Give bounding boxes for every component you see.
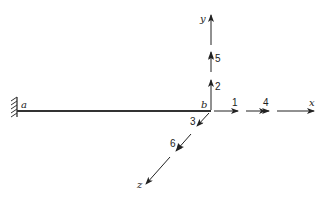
node-b-label: b — [201, 99, 207, 110]
z-axis-label: z — [136, 179, 143, 190]
beam-diagram: a b y 5 2 1 4 x 3 6 z — [0, 0, 326, 198]
y-axis-label: y — [199, 13, 206, 24]
coordinate-5-label: 5 — [215, 53, 221, 64]
node-a-label: a — [21, 99, 27, 110]
coordinate-3-label: 3 — [190, 116, 196, 127]
coordinate-6-arrow — [176, 134, 191, 151]
coordinate-1-label: 1 — [232, 97, 238, 108]
coordinate-2-label: 2 — [215, 81, 221, 92]
coordinate-5-arrow — [208, 52, 214, 72]
fixed-support-icon — [11, 97, 17, 117]
coordinate-4-label: 4 — [263, 97, 269, 108]
x-axis-label: x — [309, 97, 315, 108]
coordinate-3-arrow — [197, 113, 209, 126]
z-axis-arrow — [146, 157, 170, 184]
coordinate-4-arrow — [246, 108, 269, 114]
coordinate-6-label: 6 — [170, 138, 176, 149]
